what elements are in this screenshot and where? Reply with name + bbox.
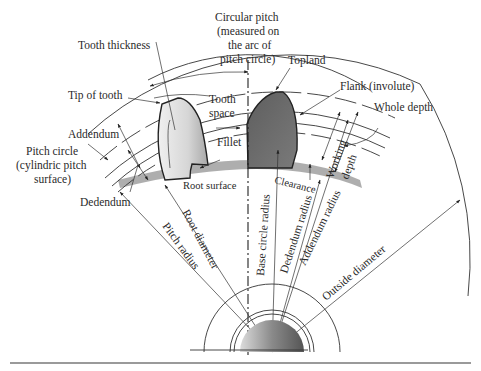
right-tooth (247, 92, 297, 168)
label-pitch-circle-1: Pitch circle (26, 145, 78, 157)
addendum-arrow (118, 124, 140, 168)
label-circular-pitch-1: Circular pitch (215, 11, 279, 24)
label-pitch-circle-2: (cylindric pitch (16, 159, 87, 172)
gear-hub (190, 284, 340, 352)
tooth-thickness-arrow (154, 94, 210, 98)
label-pitch-circle-3: surface) (34, 173, 71, 186)
label-flank: Flank (involute) (340, 80, 415, 93)
label-base-circle-radius: Base circle radius (254, 193, 272, 276)
label-tooth-space-2: space (209, 107, 235, 120)
label-outside-diameter: Outside diameter (320, 243, 388, 303)
labels: Circular pitch (measured on the arc of p… (16, 11, 433, 303)
label-root-surface: Root surface (183, 180, 237, 191)
label-tooth-thickness: Tooth thickness (78, 39, 151, 51)
label-fillet: Fillet (217, 136, 242, 148)
label-tooth-space-1: Tooth (209, 93, 236, 105)
label-addendum: Addendum (68, 128, 119, 140)
outside-arc (420, 84, 470, 296)
label-dedendum: Dedendum (80, 196, 131, 208)
label-circular-pitch-2: (measured on (217, 25, 280, 38)
topland-leader (276, 68, 290, 90)
tip-of-tooth-leader (128, 98, 160, 103)
flank-leader (300, 90, 340, 115)
label-whole-depth: Whole depth (374, 101, 433, 114)
label-clearance: Clearance (274, 174, 318, 195)
gear-tooth-nomenclature-diagram: Circular pitch (measured on the arc of p… (0, 0, 481, 371)
pitch-circle-leader (88, 144, 108, 160)
label-circular-pitch-3: the arc of (228, 39, 272, 51)
label-topland: Topland (288, 54, 326, 67)
label-tip-of-tooth: Tip of tooth (68, 89, 123, 102)
label-circular-pitch-4: pitch circle) (220, 53, 275, 66)
